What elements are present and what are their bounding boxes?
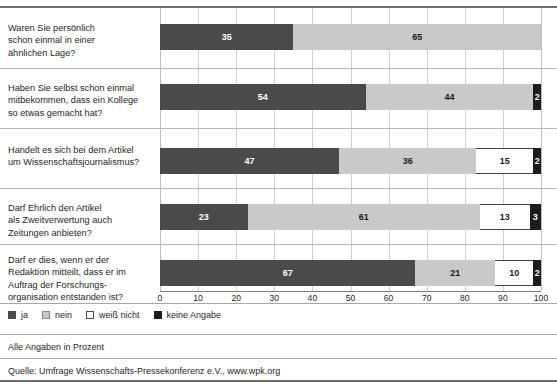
- bar-segment[interactable]: 2: [533, 84, 541, 110]
- source-note: Quelle: Umfrage Wissenschafts-Pressekonf…: [8, 366, 280, 376]
- bar-segment[interactable]: 15: [476, 148, 533, 174]
- row-separator: [0, 244, 557, 245]
- x-tick-label: 50: [336, 293, 366, 303]
- legend-label: nein: [55, 310, 72, 320]
- question-label-line: Waren Sie persönlich: [8, 22, 154, 34]
- question-label-line: Redaktion mitteilt, dass er im: [8, 266, 154, 278]
- bar-segment[interactable]: 36: [339, 148, 476, 174]
- legend-swatch-icon: [86, 311, 94, 319]
- stacked-bar[interactable]: 2361133: [160, 204, 541, 230]
- chart-rows: Waren Sie persönlichschon einmal in eine…: [0, 8, 557, 291]
- question-label-line: Darf Ehrlich den Artikel: [8, 202, 154, 214]
- stacked-bar[interactable]: 3565: [160, 24, 541, 50]
- legend-label: keine Angabe: [167, 310, 222, 320]
- x-tick-label: 70: [412, 293, 442, 303]
- question-label-line: um Wissenschaftsjournalismus?: [8, 156, 154, 168]
- legend-item[interactable]: keine Angabe: [154, 310, 222, 320]
- row-separator: [0, 68, 557, 69]
- bar-segment[interactable]: 65: [293, 24, 541, 50]
- legend-item[interactable]: weiß nicht: [86, 310, 140, 320]
- question-label-line: als Zweitverwertung auch: [8, 214, 154, 226]
- question-label-line: so etwas gemacht hat?: [8, 107, 154, 119]
- x-tick-label: 100: [526, 293, 556, 303]
- x-tick-label: 60: [374, 293, 404, 303]
- bar-segment[interactable]: 54: [160, 84, 366, 110]
- question-label-line: Handelt es sich bei dem Artikel: [8, 144, 154, 156]
- legend-swatch-icon: [154, 311, 162, 319]
- x-axis-line: [160, 291, 541, 292]
- question-label-line: Darf er dies, wenn er der: [8, 254, 154, 266]
- stacked-bar[interactable]: 54442: [160, 84, 541, 110]
- bar-segment[interactable]: 13: [480, 204, 530, 230]
- bottom-border-rule: [0, 380, 557, 382]
- row-separator: [0, 128, 557, 129]
- units-note: Alle Angaben in Prozent: [8, 342, 104, 352]
- question-label-line: Auftrag der Forschungs-: [8, 279, 154, 291]
- question-label: Darf Ehrlich den Artikelals Zweitverwert…: [8, 202, 154, 239]
- question-label-line: mitbekommen, dass ein Kollege: [8, 94, 154, 106]
- question-label: Handelt es sich bei dem Artikelum Wissen…: [8, 144, 154, 169]
- chart-legend: janeinweiß nichtkeine Angabe: [8, 306, 235, 324]
- legend-swatch-icon: [42, 311, 50, 319]
- x-tick-label: 80: [450, 293, 480, 303]
- x-tick-label: 0: [145, 293, 175, 303]
- x-tick-label: 30: [259, 293, 289, 303]
- bar-segment[interactable]: 3: [530, 204, 541, 230]
- stacked-bar[interactable]: 6721102: [160, 260, 541, 286]
- legend-item[interactable]: ja: [8, 310, 28, 320]
- bar-segment[interactable]: 44: [366, 84, 534, 110]
- legend-label: weiß nicht: [99, 310, 140, 320]
- stacked-bar[interactable]: 4736152: [160, 148, 541, 174]
- x-tick-label: 10: [183, 293, 213, 303]
- legend-label: ja: [21, 310, 28, 320]
- bar-segment[interactable]: 61: [248, 204, 480, 230]
- row-separator: [0, 188, 557, 189]
- legend-swatch-icon: [8, 311, 16, 319]
- question-label-line: Haben Sie selbst schon einmal: [8, 82, 154, 94]
- bar-segment[interactable]: 23: [160, 204, 248, 230]
- question-label-line: Zeitungen anbieten?: [8, 227, 154, 239]
- x-axis-tick-labels: 0102030405060708090100: [0, 293, 557, 307]
- source-top-rule: [0, 358, 557, 359]
- bar-segment[interactable]: 10: [495, 260, 533, 286]
- legend-item[interactable]: nein: [42, 310, 72, 320]
- bar-segment[interactable]: 67: [160, 260, 415, 286]
- question-label-line: schon einmal in einer: [8, 34, 154, 46]
- bar-segment[interactable]: 2: [533, 260, 541, 286]
- stacked-bar-chart: Waren Sie persönlichschon einmal in eine…: [0, 8, 557, 300]
- bar-segment[interactable]: 21: [415, 260, 495, 286]
- bar-segment[interactable]: 47: [160, 148, 339, 174]
- x-tick-label: 40: [297, 293, 327, 303]
- units-note-top-rule: [0, 334, 557, 335]
- question-label: Waren Sie persönlichschon einmal in eine…: [8, 22, 154, 59]
- chart-sheet: Waren Sie persönlichschon einmal in eine…: [0, 0, 557, 384]
- bar-segment[interactable]: 35: [160, 24, 293, 50]
- question-label-line: ähnlichen Lage?: [8, 47, 154, 59]
- x-tick-label: 90: [488, 293, 518, 303]
- question-label: Haben Sie selbst schon einmalmitbekommen…: [8, 82, 154, 119]
- bar-segment[interactable]: 2: [533, 148, 541, 174]
- legend-top-rule: [0, 303, 557, 304]
- x-tick-label: 20: [221, 293, 251, 303]
